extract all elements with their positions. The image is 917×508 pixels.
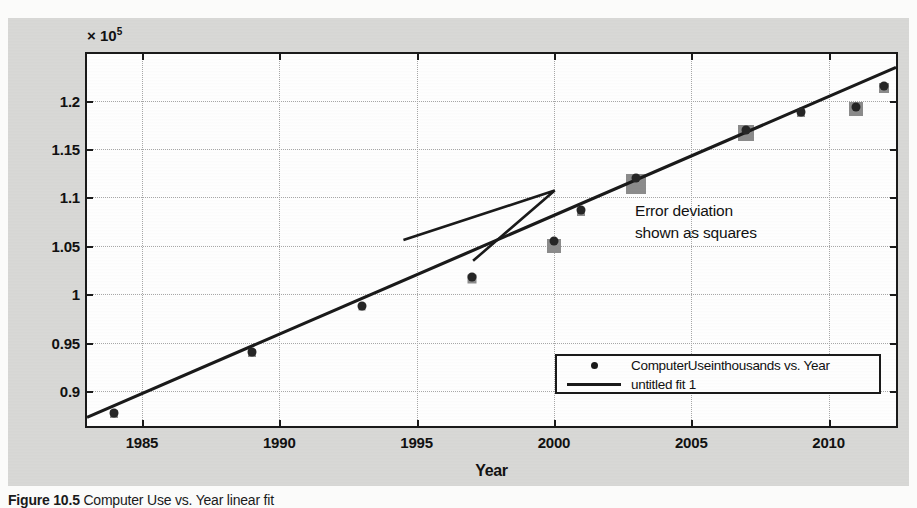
y-tick-label: 1.2 (60, 92, 80, 109)
legend-dot-marker-icon (557, 362, 631, 369)
annotation-line-2: shown as squares (635, 222, 757, 244)
caption-number: Figure 10.5 (8, 492, 80, 508)
y-tick-label: 1.15 (52, 140, 80, 157)
legend-entry-fit[interactable]: untitled fit 1 (557, 374, 879, 394)
x-tick-label: 2005 (675, 434, 708, 451)
y-tick-label: 1 (72, 286, 80, 303)
x-tick-label: 1990 (263, 434, 296, 451)
x-tick-label: 1995 (400, 434, 433, 451)
legend-box[interactable]: ComputerUseinthousands vs. Year untitled… (555, 354, 881, 394)
exponent-power: 5 (117, 26, 123, 37)
figure-panel: × 105 ComputerUseinthousands 19851990199… (8, 18, 909, 486)
y-tick-label: 1.05 (52, 237, 80, 254)
x-tick-label: 2000 (538, 434, 571, 451)
legend-line-marker-icon (557, 383, 631, 386)
legend-label-fit: untitled fit 1 (631, 377, 696, 392)
figure-caption: Figure 10.5 Computer Use vs. Year linear… (8, 492, 909, 508)
y-tick-label: 0.9 (60, 383, 80, 400)
x-tick-label: 1985 (126, 434, 159, 451)
exponent-mantissa: × 10 (87, 27, 117, 44)
legend-entry-scatter[interactable]: ComputerUseinthousands vs. Year (557, 355, 879, 375)
legend-label-scatter: ComputerUseinthousands vs. Year (631, 358, 830, 373)
y-tick-label: 1.1 (60, 189, 80, 206)
y-axis-title-wrapper: ComputerUseinthousands (18, 52, 44, 428)
annotation-line-1: Error deviation (635, 200, 757, 222)
y-tick-label: 0.95 (52, 334, 80, 351)
caption-text: Computer Use vs. Year linear fit (80, 492, 274, 508)
x-tick-label: 2010 (812, 434, 845, 451)
annotation-text: Error deviation shown as squares (635, 200, 757, 244)
y-axis-exponent-label: × 105 (87, 26, 122, 44)
x-axis-title: Year (85, 462, 898, 480)
